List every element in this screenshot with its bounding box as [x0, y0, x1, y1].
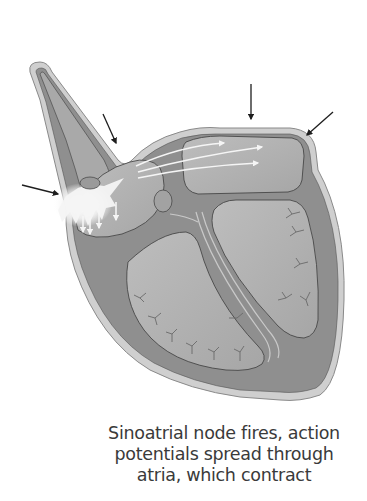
caption-line-3: atria, which contract [88, 465, 360, 486]
heart-diagram [0, 0, 367, 420]
caption-line-1: Sinoatrial node fires, action [88, 423, 360, 444]
sa-node [80, 177, 100, 189]
diagram-caption: Sinoatrial node fires, action potentials… [88, 423, 360, 486]
left-atrium-pointer-arrow [22, 185, 58, 194]
av-node [154, 190, 172, 212]
right-atrium-pointer-arrow [307, 112, 333, 135]
vena-cava-pointer-arrow [103, 114, 116, 143]
caption-line-2: potentials spread through [88, 444, 360, 465]
left-atrium-chamber [182, 136, 304, 194]
